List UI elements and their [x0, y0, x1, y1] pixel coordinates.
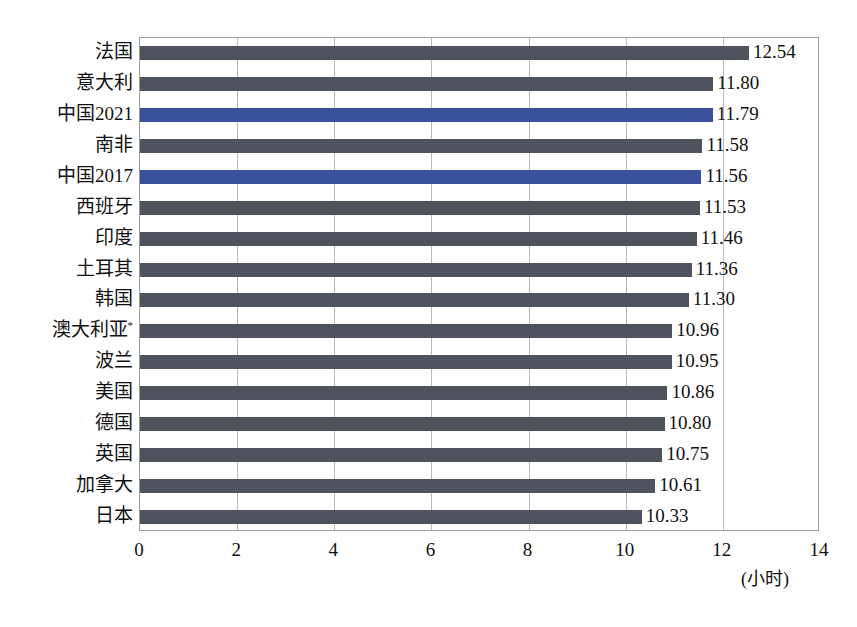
- x-tick-label: 14: [810, 540, 829, 559]
- bar: [140, 448, 662, 462]
- category-label: 印度: [0, 228, 133, 247]
- value-label: 12.54: [753, 42, 796, 61]
- category-label: 美国: [0, 382, 133, 401]
- footnote-marker: *: [128, 319, 134, 331]
- category-label: 英国: [0, 444, 133, 463]
- value-label: 11.56: [705, 166, 747, 185]
- value-label: 10.75: [666, 444, 709, 463]
- value-label: 11.58: [706, 135, 748, 154]
- category-label: 韩国: [0, 289, 133, 308]
- bar: [140, 355, 672, 369]
- value-label: 11.80: [717, 73, 759, 92]
- category-label: 中国2017: [0, 166, 133, 185]
- value-label: 10.96: [676, 320, 719, 339]
- x-axis-tick-labels: 02468101214: [0, 540, 857, 566]
- x-axis-unit-label: (小时): [741, 570, 789, 588]
- x-tick-label: 0: [134, 540, 144, 559]
- category-label: 西班牙: [0, 197, 133, 216]
- bar: [140, 510, 642, 524]
- bar-chart: 法国意大利中国2021南非中国2017西班牙印度土耳其韩国澳大利亚*波兰美国德国…: [0, 0, 857, 627]
- category-axis-labels: 法国意大利中国2021南非中国2017西班牙印度土耳其韩国澳大利亚*波兰美国德国…: [0, 37, 133, 531]
- bar: [140, 324, 672, 338]
- category-label: 南非: [0, 135, 133, 154]
- value-label: 10.95: [676, 351, 719, 370]
- bar: [140, 293, 689, 307]
- bar: [140, 232, 697, 246]
- x-tick-label: 4: [329, 540, 339, 559]
- value-label: 11.46: [701, 228, 743, 247]
- bar: [140, 46, 749, 60]
- category-label: 土耳其: [0, 259, 133, 278]
- bar: [140, 386, 667, 400]
- bar: [140, 201, 700, 215]
- category-label: 澳大利亚*: [0, 320, 133, 339]
- value-label: 11.79: [717, 104, 759, 123]
- value-label: 11.30: [693, 289, 735, 308]
- category-label: 加拿大: [0, 475, 133, 494]
- category-label: 意大利: [0, 73, 133, 92]
- bar: [140, 108, 713, 122]
- value-label: 11.36: [696, 259, 738, 278]
- category-label: 德国: [0, 413, 133, 432]
- bar: [140, 77, 713, 91]
- category-label: 波兰: [0, 351, 133, 370]
- category-label: 中国2021: [0, 104, 133, 123]
- value-label: 10.61: [659, 475, 702, 494]
- x-tick-label: 8: [523, 540, 533, 559]
- bottom-caption: [0, 618, 857, 627]
- bar: [140, 417, 665, 431]
- x-tick-label: 6: [426, 540, 436, 559]
- category-label: 日本: [0, 506, 133, 525]
- category-label: 法国: [0, 42, 133, 61]
- value-label: 10.80: [669, 413, 712, 432]
- x-tick-label: 2: [231, 540, 241, 559]
- bar: [140, 170, 701, 184]
- value-label: 11.53: [704, 197, 746, 216]
- bar: [140, 263, 692, 277]
- value-label: 10.86: [671, 382, 714, 401]
- value-label: 10.33: [646, 506, 689, 525]
- bar: [140, 139, 702, 153]
- bar: [140, 479, 655, 493]
- x-tick-label: 12: [712, 540, 731, 559]
- x-tick-label: 10: [615, 540, 634, 559]
